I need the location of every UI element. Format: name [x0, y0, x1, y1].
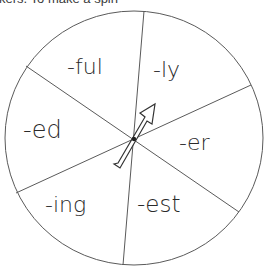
center-pin — [132, 137, 136, 141]
section-label-ful: -ful — [67, 54, 103, 79]
spinner-wheel[interactable]: -ful -ly -er -est -ing -ed — [0, 0, 267, 269]
section-label-est: -est — [137, 191, 180, 217]
section-label-ed: -ed — [23, 116, 62, 144]
section-label-ly: -ly — [153, 57, 180, 82]
section-label-er: -er — [179, 130, 210, 155]
section-labels: -ful -ly -er -est -ing -ed — [23, 54, 210, 217]
arrow-pointer-icon[interactable] — [114, 104, 155, 168]
section-label-ing: -ing — [45, 192, 86, 217]
